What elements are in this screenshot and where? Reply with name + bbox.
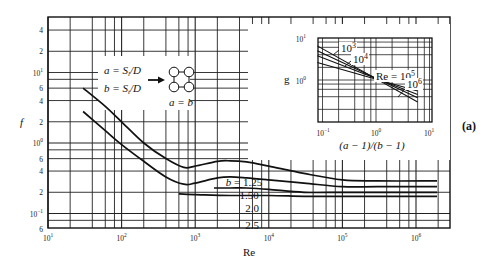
curve-label: 2.0: [245, 202, 259, 214]
x-axis-label: Re: [243, 246, 255, 258]
tick-label: 101: [43, 232, 54, 243]
y-axis-label: f: [20, 116, 25, 128]
inset-x-label: (a − 1)/(b − 1): [339, 139, 405, 152]
tick-label: 2: [39, 188, 43, 197]
panel-label: (a): [462, 119, 476, 133]
tick-label: 100: [33, 137, 44, 148]
tick-label: 6: [39, 84, 43, 93]
inset-chart: 103104Re = 10510610−1100101101100g(a − 1…: [248, 24, 450, 160]
tick-label: 102: [116, 232, 127, 243]
tick-label: 104: [264, 232, 275, 243]
tick-label: 106: [411, 232, 422, 243]
tick-label: 4: [39, 97, 43, 106]
tick-label: 4: [39, 26, 43, 35]
geometry-legend-box: a = Sl/Db = St/Da = b: [98, 56, 194, 110]
tick-label: 101: [33, 67, 44, 78]
curve-label: 1.50: [239, 189, 259, 201]
friction-factor-chart: a = Sl/Db = St/Da = b b = 1.251.502.02.5…: [0, 0, 495, 268]
curve-label: 2.5: [245, 219, 259, 231]
inset-y-label: g: [284, 73, 290, 85]
legend-text: a = Sl/D: [104, 64, 141, 78]
tick-label: 6: [39, 155, 43, 164]
tick-label: 105: [337, 232, 348, 243]
tick-label: 4: [39, 167, 43, 176]
tick-label: 2: [39, 118, 43, 127]
tick-label: 103: [190, 232, 201, 243]
tick-label: 10−1: [30, 208, 44, 219]
curve-label: b = 1.25: [226, 176, 263, 188]
tick-label: 2: [39, 47, 43, 56]
legend-note: a = b: [169, 96, 193, 108]
tick-label: 6: [39, 225, 43, 234]
legend-text: b = St/D: [104, 82, 141, 96]
